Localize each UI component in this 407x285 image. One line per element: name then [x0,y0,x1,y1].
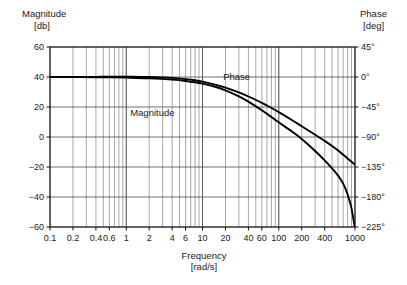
right-tick-label: −180° [361,192,385,202]
x-tick-label: 0.2 [67,233,80,243]
left-axis-unit: [db] [34,20,50,31]
right-tick-label: −135° [361,162,385,172]
x-tick-label: 0.1 [44,233,57,243]
left-tick-label: 40 [34,72,44,82]
x-tick-label: 1 [124,233,129,243]
left-tick-label: −60 [29,222,44,232]
x-tick-label: 400 [317,233,332,243]
left-tick-label: 20 [34,102,44,112]
x-tick-label: 40 [243,233,253,243]
magnitude-curve-label: Magnitude [130,107,174,118]
x-tick-label: 2 [147,233,152,243]
right-tick-label: 0° [361,72,370,82]
x-tick-label: 100 [271,233,286,243]
left-tick-label: 0 [39,132,44,142]
x-tick-label: 60 [257,233,267,243]
x-tick-label: 200 [294,233,309,243]
right-axis-unit: [deg] [363,20,384,31]
x-tick-label: 1000 [345,233,365,243]
x-tick-label: 20 [220,233,230,243]
right-tick-label: −45° [361,102,380,112]
bode-plot-figure: 0.10.20.40.61246102040601002004001000 60… [0,0,407,285]
x-tick-label: 6 [183,233,188,243]
left-tick-label: −40 [29,192,44,202]
x-tick-label: 0.4 [90,233,103,243]
left-tick-label: 60 [34,42,44,52]
x-tick-label: 0.6 [103,233,116,243]
x-axis-title: Frequency [182,250,227,261]
right-tick-label: 45° [361,42,375,52]
right-tick-label: −225° [361,222,385,232]
x-tick-label: 10 [197,233,207,243]
x-axis-tick-labels: 0.10.20.40.61246102040601002004001000 [44,233,365,243]
phase-curve-label: Phase [223,71,250,82]
left-axis-title: Magnitude [22,8,66,19]
left-tick-label: −20 [29,162,44,172]
x-tick-label: 4 [170,233,175,243]
right-axis-title: Phase [360,8,387,19]
x-axis-unit: [rad/s] [191,261,217,272]
right-tick-label: −90° [361,132,380,142]
